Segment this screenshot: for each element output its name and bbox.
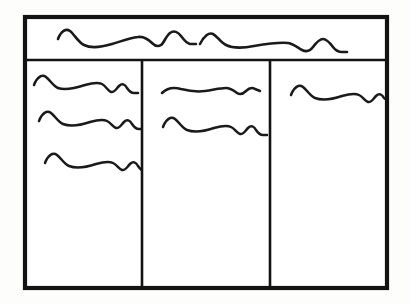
wireframe-sketch [0, 0, 410, 304]
content-column-middle[interactable] [142, 60, 270, 288]
content-column-left[interactable] [25, 60, 149, 288]
column-right-background [270, 60, 387, 288]
column-left-background [25, 60, 142, 288]
content-column-right[interactable] [270, 60, 387, 288]
wireframe-canvas [0, 0, 410, 304]
header-banner-background [25, 17, 387, 60]
header-banner[interactable] [25, 17, 387, 60]
column-middle-background [142, 60, 270, 288]
